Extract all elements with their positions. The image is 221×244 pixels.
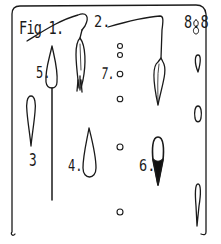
label-fig5: 5. <box>36 65 50 81</box>
label-fig6: 6. <box>139 158 155 174</box>
label-fig8: 8.8 <box>184 14 209 31</box>
figure-title: Fig 1. <box>19 20 63 37</box>
fig3-teardrop <box>27 96 36 146</box>
label-fig4: 4. <box>68 158 82 174</box>
fig2-seed-drawing <box>76 30 85 92</box>
label-fig7: 7. <box>100 66 115 82</box>
label-fig3: 3 <box>29 152 37 169</box>
fig7-circle-column <box>117 44 123 216</box>
fig8-connector-curve <box>108 16 163 58</box>
label-fig2: 2. <box>94 14 110 30</box>
fig4-teardrop <box>83 128 96 177</box>
frame-border <box>11 5 206 235</box>
hanging-seed-drawing <box>154 58 165 105</box>
figure-plate: Fig 1. 2. 5. 7. 8.8 3 4. 6. <box>0 0 221 244</box>
fig8-teardrop-column <box>193 20 201 226</box>
